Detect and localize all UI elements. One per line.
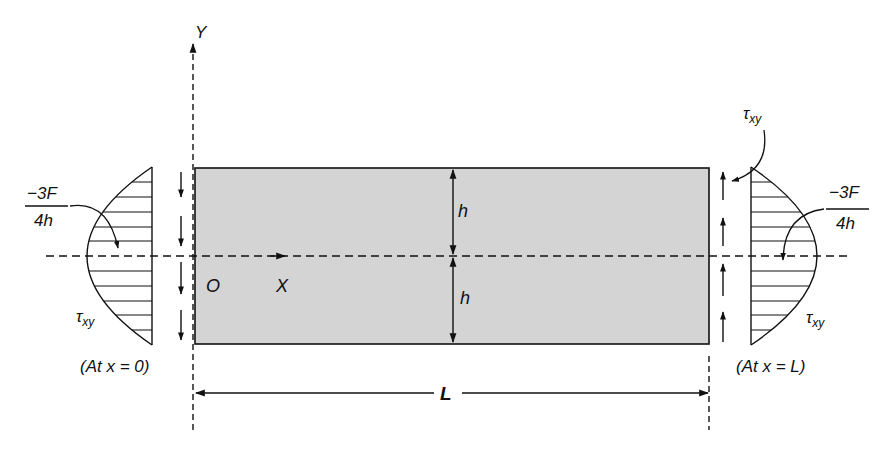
h-label-bottom: h bbox=[460, 288, 470, 308]
left-caption: (At x = 0) bbox=[80, 357, 149, 376]
left-peak-label: −3F 4h bbox=[25, 184, 118, 248]
svg-text:−3F: −3F bbox=[829, 183, 860, 202]
svg-text:τxy: τxy bbox=[76, 307, 95, 329]
svg-text:τxy: τxy bbox=[743, 104, 762, 126]
left-tau-label: τxy bbox=[76, 307, 95, 329]
length-label: L bbox=[440, 383, 452, 404]
right-top-tau-label: τxy bbox=[732, 104, 765, 181]
beam-shear-diagram: Y O X h h L bbox=[0, 0, 891, 457]
right-caption: (At x = L) bbox=[736, 357, 805, 376]
svg-text:−3F: −3F bbox=[27, 184, 58, 203]
x-axis-label: X bbox=[275, 276, 289, 296]
origin-label: O bbox=[206, 276, 220, 296]
h-label-top: h bbox=[458, 201, 468, 221]
svg-text:4h: 4h bbox=[34, 211, 53, 230]
svg-text:4h: 4h bbox=[836, 214, 855, 233]
y-axis-label: Y bbox=[195, 23, 208, 42]
svg-text:τxy: τxy bbox=[806, 308, 825, 330]
right-tau-label: τxy bbox=[806, 308, 825, 330]
right-peak-label: −3F 4h bbox=[783, 183, 869, 260]
length-dimension: L bbox=[196, 383, 708, 404]
